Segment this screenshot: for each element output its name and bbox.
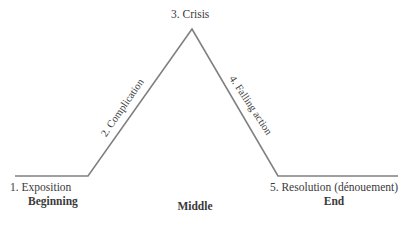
plot-arc-polyline (15, 29, 398, 176)
resolution-label: 5. Resolution (dénouement) (262, 181, 406, 193)
plot-structure-diagram: 3. Crisis 2. Complication 4. Falling act… (0, 0, 412, 230)
crisis-label: 3. Crisis (171, 8, 209, 22)
stage-end: 5. Resolution (dénouement) End (262, 181, 406, 207)
end-label: End (262, 195, 406, 207)
middle-label: Middle (140, 200, 250, 212)
stage-middle: Middle (140, 198, 250, 212)
beginning-label: Beginning (10, 195, 78, 207)
stage-beginning: 1. Exposition Beginning (10, 181, 78, 207)
exposition-label: 1. Exposition (10, 181, 78, 193)
